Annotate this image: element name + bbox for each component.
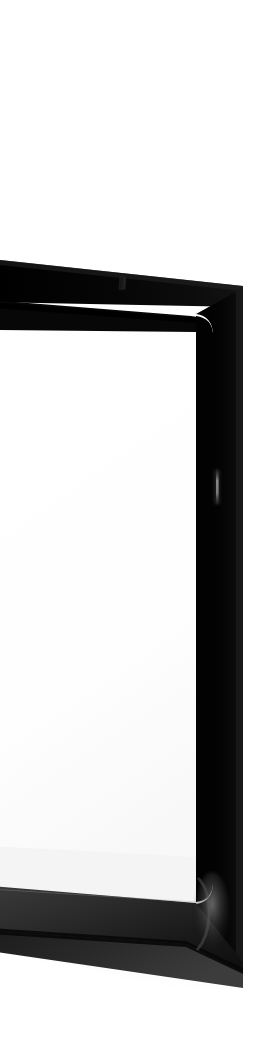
corner-highlight (195, 872, 229, 952)
right-bezel-column (196, 288, 243, 976)
photograph-canvas: A steeply angled close-up photograph of … (0, 0, 257, 1063)
screen-face (0, 300, 213, 903)
display-bezel-photograph (0, 0, 257, 1063)
sensor-mark-icon (118, 275, 126, 290)
specular-highlight (214, 466, 220, 508)
